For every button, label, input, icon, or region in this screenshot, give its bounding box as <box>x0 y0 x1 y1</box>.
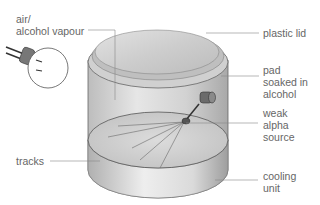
label-alpha-source: weak alpha source <box>263 107 295 143</box>
label-air-vapour: air/ alcohol vapour <box>16 13 84 37</box>
magnifier-inset <box>6 46 68 88</box>
label-tracks: tracks <box>16 155 44 167</box>
plastic-lid <box>88 30 228 88</box>
label-cooling-unit: cooling unit <box>263 170 296 194</box>
label-pad: pad soaked in alcohol <box>263 64 308 100</box>
label-plastic-lid: plastic lid <box>263 27 306 39</box>
alcohol-pad <box>200 92 216 103</box>
